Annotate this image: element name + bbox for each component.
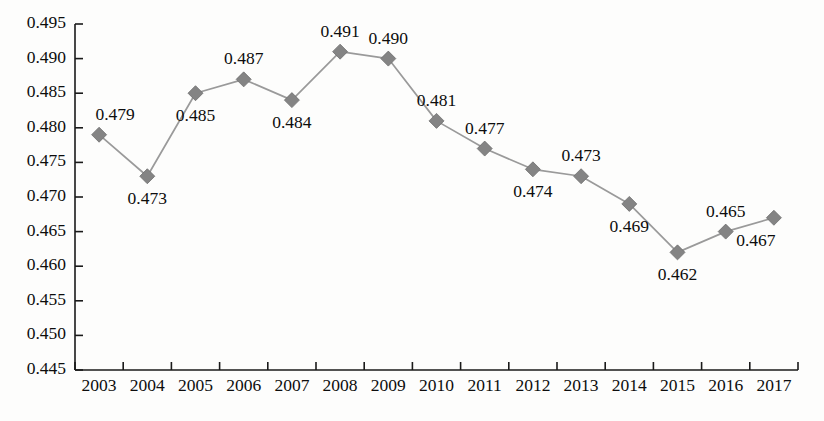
y-axis-tick-label: 0.465 bbox=[27, 220, 67, 240]
data-point-label: 0.473 bbox=[561, 145, 601, 165]
y-axis-tick-labels: 0.4950.4900.4850.4800.4750.4700.4650.460… bbox=[27, 12, 67, 378]
x-axis-tick-label: 2016 bbox=[708, 375, 743, 395]
data-point-label: 0.481 bbox=[417, 90, 456, 110]
x-axis-tick-label: 2006 bbox=[226, 375, 261, 395]
data-point-label: 0.491 bbox=[320, 21, 359, 41]
data-point-marker bbox=[188, 86, 203, 101]
y-axis-tick-label: 0.490 bbox=[27, 47, 67, 67]
x-axis-tick-label: 2004 bbox=[130, 375, 165, 395]
chart-canvas: 0.4950.4900.4850.4800.4750.4700.4650.460… bbox=[0, 0, 824, 421]
series-line-path bbox=[99, 52, 774, 253]
data-point-label: 0.465 bbox=[706, 201, 746, 221]
x-axis-tick-label: 2014 bbox=[612, 375, 647, 395]
x-tick-marks bbox=[75, 362, 798, 370]
data-point-label: 0.487 bbox=[224, 48, 264, 68]
x-axis-tick-label: 2012 bbox=[515, 375, 550, 395]
x-axis-tick-label: 2003 bbox=[82, 375, 117, 395]
x-axis-tick-label: 2009 bbox=[371, 375, 406, 395]
data-point-marker bbox=[477, 141, 492, 156]
x-axis-tick-label: 2015 bbox=[660, 375, 695, 395]
x-axis-tick-label: 2007 bbox=[274, 375, 309, 395]
y-axis-group bbox=[75, 24, 83, 370]
data-point-label: 0.462 bbox=[658, 264, 697, 284]
y-axis-tick-label: 0.485 bbox=[27, 81, 67, 101]
y-axis-tick-label: 0.455 bbox=[27, 289, 67, 309]
data-point-label: 0.484 bbox=[272, 112, 312, 132]
data-point-markers bbox=[92, 44, 782, 260]
data-point-label: 0.479 bbox=[95, 104, 135, 124]
data-point-marker bbox=[236, 72, 251, 87]
data-point-label: 0.490 bbox=[369, 28, 409, 48]
data-point-marker bbox=[381, 51, 396, 66]
y-axis-tick-label: 0.470 bbox=[27, 185, 67, 205]
data-point-labels: 0.4790.4730.4850.4870.4840.4910.4900.481… bbox=[95, 21, 775, 285]
x-axis-group bbox=[75, 362, 798, 370]
x-axis-tick-label: 2010 bbox=[419, 375, 454, 395]
data-point-label: 0.485 bbox=[176, 105, 216, 125]
data-point-marker bbox=[574, 169, 589, 184]
y-axis-tick-label: 0.495 bbox=[27, 12, 67, 32]
x-axis-tick-label: 2013 bbox=[564, 375, 599, 395]
y-axis-tick-label: 0.445 bbox=[27, 358, 67, 378]
x-axis-tick-labels: 2003200420052006200720082009201020112012… bbox=[82, 375, 792, 395]
data-point-label: 0.474 bbox=[513, 181, 553, 201]
y-axis-tick-label: 0.460 bbox=[27, 254, 67, 274]
x-axis-tick-label: 2008 bbox=[323, 375, 358, 395]
y-tick-marks bbox=[75, 24, 83, 370]
y-axis-tick-label: 0.450 bbox=[27, 323, 67, 343]
y-axis-tick-label: 0.480 bbox=[27, 116, 67, 136]
x-axis-tick-label: 2005 bbox=[178, 375, 213, 395]
data-point-label: 0.467 bbox=[736, 230, 776, 250]
data-point-label: 0.477 bbox=[465, 118, 505, 138]
line-chart: 0.4950.4900.4850.4800.4750.4700.4650.460… bbox=[0, 0, 824, 421]
x-axis-tick-label: 2011 bbox=[468, 375, 502, 395]
data-point-marker bbox=[525, 162, 540, 177]
data-point-marker bbox=[718, 224, 733, 239]
data-point-label: 0.469 bbox=[610, 216, 650, 236]
data-point-label: 0.473 bbox=[128, 188, 168, 208]
data-point-marker bbox=[766, 210, 781, 225]
y-axis-tick-label: 0.475 bbox=[27, 150, 67, 170]
x-axis-tick-label: 2017 bbox=[756, 375, 791, 395]
data-point-marker bbox=[429, 113, 444, 128]
